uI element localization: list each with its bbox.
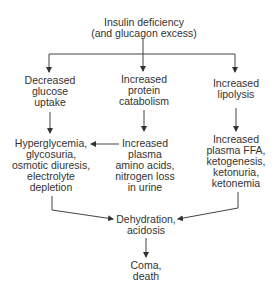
node-line: acidosis: [116, 225, 176, 236]
node-line: in urine: [115, 182, 175, 193]
edge-ffa-to-dehydration: [178, 192, 238, 219]
node-line: death: [131, 271, 162, 282]
node-increased-plasma-amino-acids: Increased plasma amino acids, nitrogen l…: [115, 138, 175, 193]
node-line: ketonemia: [207, 178, 266, 189]
node-dehydration-acidosis: Dehydration, acidosis: [116, 214, 176, 236]
edge-hyperglycemia-to-dehydration: [52, 196, 113, 219]
node-line: (and glucagon excess): [91, 28, 197, 39]
node-coma-death: Coma, death: [131, 260, 162, 282]
node-increased-lipolysis: Increased lipolysis: [213, 78, 259, 100]
node-line: uptake: [25, 97, 76, 108]
node-line: catabolism: [119, 96, 169, 107]
node-insulin-deficiency: Insulin deficiency (and glucagon excess): [91, 17, 197, 39]
node-increased-protein-catabolism: Increased protein catabolism: [119, 74, 169, 107]
node-increased-plasma-ffa: Increased plasma FFA, ketogenesis, keton…: [207, 134, 266, 189]
node-line: depletion: [12, 182, 90, 193]
node-decreased-glucose-uptake: Decreased glucose uptake: [25, 75, 76, 108]
node-line: lipolysis: [213, 89, 259, 100]
node-hyperglycemia: Hyperglycemia, glycosuria, osmotic diure…: [12, 138, 90, 193]
